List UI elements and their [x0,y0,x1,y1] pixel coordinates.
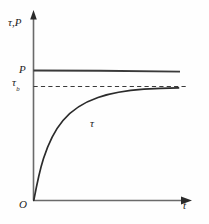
figure-container: τ,P P τb τ O t [0,0,209,224]
curve-label: τ [90,118,94,129]
tau-limit-label: τb [12,77,19,91]
x-axis-label: t [183,200,186,211]
origin-label: O [19,199,27,210]
tau-limit-subscript: b [16,85,19,92]
y-axis-arrowhead [30,10,37,20]
plot-canvas [0,0,209,224]
y-axis-label-p: P [15,16,22,28]
y-axis-label: τ,P [8,17,21,28]
y-axis [30,10,37,201]
series-curve-tau [34,88,179,200]
p-level-label: P [19,64,26,75]
x-axis [34,197,193,205]
series-line-P [34,71,181,72]
